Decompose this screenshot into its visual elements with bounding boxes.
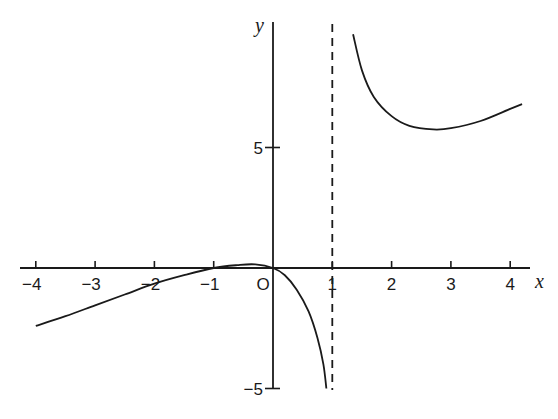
function-graph: −4−3−2−1O12345−5xy [0, 0, 558, 419]
x-tick-label: −2 [141, 275, 160, 294]
x-axis-label: x [534, 270, 544, 292]
y-tick-label: 5 [254, 139, 263, 158]
x-tick-label: 4 [505, 275, 514, 294]
curves [36, 34, 522, 388]
y-axis-label: y [253, 14, 264, 37]
x-tick-label: −3 [81, 275, 100, 294]
y-tick-label: −5 [244, 380, 263, 399]
x-tick-label: 1 [328, 275, 337, 294]
right-branch-curve [353, 34, 522, 129]
x-tick-label: O [256, 275, 269, 294]
left-branch-curve [36, 264, 327, 388]
x-tick-label: 3 [446, 275, 455, 294]
axes [20, 22, 530, 390]
x-tick-label: −4 [22, 275, 41, 294]
tick-labels: −4−3−2−1O12345−5xy [22, 14, 544, 399]
x-tick-label: 2 [387, 275, 396, 294]
x-tick-label: −1 [200, 275, 219, 294]
